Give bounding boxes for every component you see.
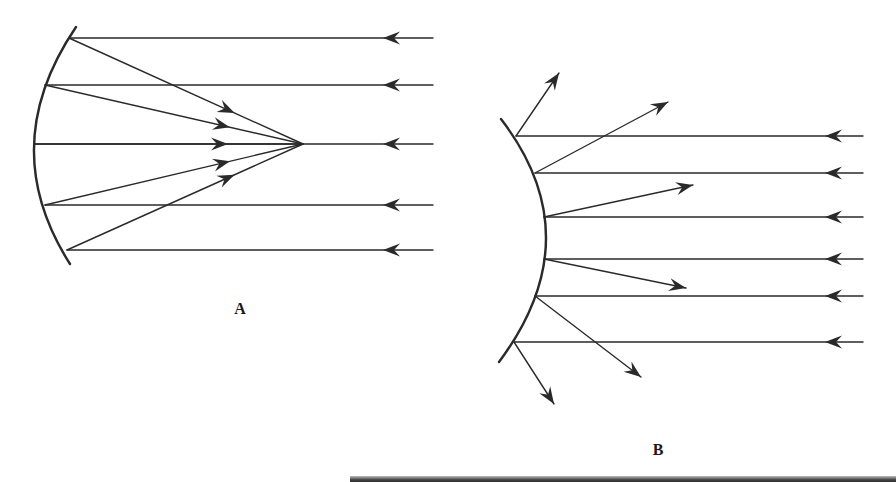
convex-mirror (499, 119, 546, 362)
reflected-ray (45, 144, 303, 205)
reflected-ray (514, 342, 554, 404)
reflected-arrow-icon (650, 102, 668, 116)
reflected-ray (544, 185, 693, 217)
reflected-arrow-icon (544, 73, 559, 91)
reflected-ray (45, 85, 303, 144)
convex-mirror-diagram (499, 73, 863, 404)
page-edge-bar (350, 476, 896, 482)
reflected-ray (544, 259, 686, 288)
reflected-arrow-icon (624, 362, 642, 378)
label-b: B (653, 441, 664, 458)
concave-mirror-diagram (34, 27, 433, 264)
mirror-reflection-diagram: A B (0, 0, 896, 482)
reflected-arrow-icon (539, 386, 554, 404)
reflected-ray (535, 102, 668, 173)
reflected-ray (516, 73, 559, 136)
concave-mirror (34, 27, 76, 264)
reflected-ray (69, 38, 303, 144)
reflected-ray (535, 296, 641, 377)
reflected-ray (67, 144, 303, 250)
label-a: A (234, 300, 246, 317)
